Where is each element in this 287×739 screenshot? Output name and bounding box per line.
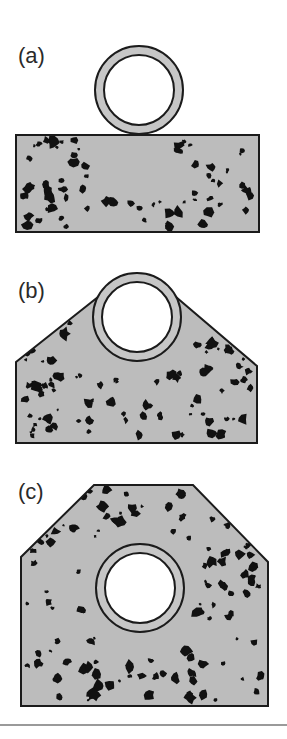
panel-label-a: (a) bbox=[18, 43, 45, 68]
pipe-bedding-diagram: (a) (b) (c) bbox=[0, 0, 287, 739]
pipe-bore bbox=[104, 55, 174, 125]
aggregate-particle bbox=[189, 413, 192, 415]
panel-c: (c) bbox=[18, 479, 268, 706]
panel-label-c: (c) bbox=[18, 479, 44, 504]
bottom-divider bbox=[0, 724, 287, 726]
panel-a: (a) bbox=[16, 43, 259, 232]
pipe-b bbox=[93, 273, 181, 361]
concrete-base-a bbox=[16, 135, 259, 232]
panel-label-b: (b) bbox=[18, 278, 45, 303]
pipe-c bbox=[96, 544, 184, 632]
panel-b: (b) bbox=[16, 273, 257, 443]
pipe-bore bbox=[105, 553, 175, 623]
aggregate-particle bbox=[28, 184, 35, 189]
pipe-bore bbox=[102, 282, 172, 352]
pipe-a bbox=[95, 46, 183, 134]
